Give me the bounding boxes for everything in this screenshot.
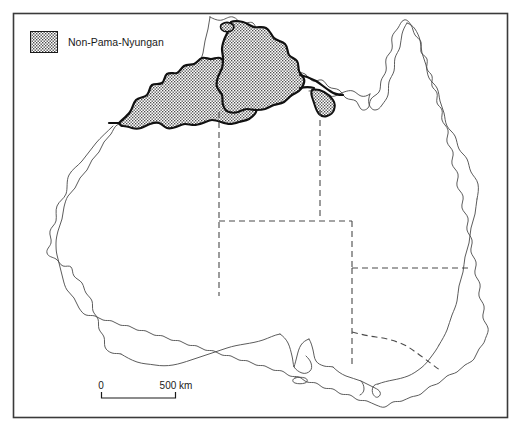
scale-bar-start-label: 0	[98, 380, 104, 391]
australia-map-svg: Non-Pama-Nyungan 0 500 km	[0, 0, 522, 430]
non-pama-nyungan-boundary-northeast	[300, 87, 314, 88]
scale-bar-line	[102, 392, 176, 398]
legend-swatch-non-pama-nyungan	[31, 32, 58, 53]
scale-bar-end-label: 500 km	[160, 380, 193, 391]
non-pama-nyungan-island-tiwi	[221, 23, 234, 32]
legend: Non-Pama-Nyungan	[31, 32, 164, 53]
map-figure: Non-Pama-Nyungan 0 500 km	[0, 0, 522, 430]
legend-label-non-pama-nyungan: Non-Pama-Nyungan	[68, 36, 164, 48]
scale-bar: 0 500 km	[98, 380, 192, 398]
